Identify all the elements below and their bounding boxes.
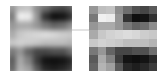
pixel-cell	[67, 65, 73, 71]
pixel-cell	[98, 6, 107, 14]
pixel-cell	[132, 39, 141, 47]
pixel-cell	[67, 39, 73, 48]
pixel-cell	[89, 47, 98, 55]
pixel-cell	[98, 30, 107, 38]
pixel-cell	[149, 30, 158, 38]
pixel-cell	[123, 30, 132, 38]
pixel-cell	[123, 14, 132, 22]
pixel-cell	[33, 39, 42, 48]
pixel-cell	[98, 63, 107, 71]
pixel-cell	[140, 63, 149, 71]
pixel-cell	[140, 30, 149, 38]
pixel-cell	[58, 47, 67, 56]
pixel-cell	[58, 65, 67, 71]
pixel-cell	[67, 56, 73, 65]
pixel-cell	[50, 39, 59, 48]
pixel-cell	[149, 47, 158, 55]
pixel-cell	[58, 39, 67, 48]
pixel-cell	[41, 12, 50, 21]
pixel-cell	[149, 63, 158, 71]
pixel-cell	[140, 22, 149, 30]
pixel-cell	[106, 47, 115, 55]
pixel-cell	[89, 14, 98, 22]
pixel-cell	[132, 55, 141, 63]
pixel-cell	[33, 12, 42, 21]
pixel-cell	[140, 14, 149, 22]
pixel-cell	[123, 22, 132, 30]
pixel-cell	[115, 22, 124, 30]
pixel-cell	[33, 56, 42, 65]
pixel-cell	[24, 39, 33, 48]
pixel-cell	[89, 6, 98, 14]
pixel-cell	[58, 30, 67, 39]
pixel-cell	[16, 21, 25, 30]
pixel-cell	[115, 30, 124, 38]
pixel-cell	[89, 63, 98, 71]
pixel-cell	[16, 47, 25, 56]
pixel-cell	[140, 55, 149, 63]
pixel-cell	[41, 56, 50, 65]
pixel-cell	[106, 30, 115, 38]
pixel-cell	[16, 65, 25, 71]
pixelated-image-panel	[89, 6, 157, 71]
pixel-cell	[106, 55, 115, 63]
pixel-cell	[58, 56, 67, 65]
pixel-cell	[132, 22, 141, 30]
pixel-cell	[123, 55, 132, 63]
pixel-cell	[106, 22, 115, 30]
pixel-cell	[149, 14, 158, 22]
pixel-cell	[106, 6, 115, 14]
pixel-cell	[24, 56, 33, 65]
pixel-cell	[106, 63, 115, 71]
pixel-cell	[58, 21, 67, 30]
pixel-cell	[58, 12, 67, 21]
pixel-cell	[98, 55, 107, 63]
pixel-cell	[50, 65, 59, 71]
pixel-cell	[16, 30, 25, 39]
pixel-cell	[115, 55, 124, 63]
pixel-cell	[50, 47, 59, 56]
pixel-cell	[115, 14, 124, 22]
pixel-cell	[132, 47, 141, 55]
pixel-cell	[16, 39, 25, 48]
pixel-cell	[140, 47, 149, 55]
pixel-cell	[132, 30, 141, 38]
pixel-cell	[149, 39, 158, 47]
pixel-cell	[41, 47, 50, 56]
pixel-cell	[123, 6, 132, 14]
pixel-cell	[24, 30, 33, 39]
pixel-cell	[33, 30, 42, 39]
pixel-cell	[67, 47, 73, 56]
pixel-cell	[50, 12, 59, 21]
pixel-cell	[149, 22, 158, 30]
pixel-cell	[140, 6, 149, 14]
pixel-cell	[89, 55, 98, 63]
pixel-cell	[16, 56, 25, 65]
original-image-panel	[10, 6, 72, 71]
pixel-cell	[98, 47, 107, 55]
pixel-cell	[24, 47, 33, 56]
pixel-cell	[41, 65, 50, 71]
pixel-cell	[50, 30, 59, 39]
pixel-cell	[41, 39, 50, 48]
pixel-cell	[33, 21, 42, 30]
pixel-cell	[123, 47, 132, 55]
pixel-cell	[50, 56, 59, 65]
pixel-cell	[106, 39, 115, 47]
pixel-cell	[41, 21, 50, 30]
pixel-cell	[50, 21, 59, 30]
pixel-cell	[98, 22, 107, 30]
pixel-cell	[123, 63, 132, 71]
pixel-cell	[24, 12, 33, 21]
pixel-cell	[24, 65, 33, 71]
pixel-cell	[140, 39, 149, 47]
pixel-cell	[115, 63, 124, 71]
pixel-cell	[115, 39, 124, 47]
pixel-cell	[98, 14, 107, 22]
pixel-cell	[149, 55, 158, 63]
pixel-cell	[67, 12, 73, 21]
pixel-cell	[132, 6, 141, 14]
pixel-cell	[89, 39, 98, 47]
pixel-cell	[98, 39, 107, 47]
pixel-cell	[33, 65, 42, 71]
